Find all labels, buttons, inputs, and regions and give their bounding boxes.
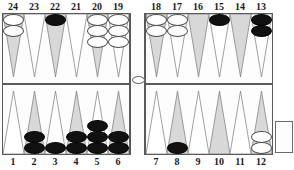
point-number-8: 8 <box>168 155 186 168</box>
point-number-20: 20 <box>88 0 106 13</box>
point-triangle-14 <box>230 14 251 77</box>
point-20[interactable] <box>87 14 108 77</box>
checker-white-point-18[interactable] <box>146 25 167 37</box>
point-number-21: 21 <box>67 0 85 13</box>
checker-black-point-2[interactable] <box>24 142 45 154</box>
point-number-6: 6 <box>109 155 127 168</box>
point-number-5: 5 <box>88 155 106 168</box>
checker-white-point-24[interactable] <box>3 25 24 37</box>
point-1[interactable] <box>3 91 24 154</box>
point-number-12: 12 <box>252 155 270 168</box>
point-6[interactable] <box>108 91 129 154</box>
checker-black-point-3[interactable] <box>45 142 66 154</box>
point-number-4: 4 <box>67 155 85 168</box>
checker-black-point-5[interactable] <box>87 142 108 154</box>
checker-black-point-5[interactable] <box>87 120 108 132</box>
point-3[interactable] <box>45 91 66 154</box>
point-9[interactable] <box>188 91 209 154</box>
checker-white-point-17[interactable] <box>167 25 188 37</box>
bar[interactable] <box>130 13 145 155</box>
point-number-24: 24 <box>4 0 22 13</box>
point-23[interactable] <box>24 14 45 77</box>
quadrant-bottom-right <box>145 84 273 155</box>
bear-off-tray-bottom[interactable] <box>275 121 293 153</box>
point-number-7: 7 <box>147 155 165 168</box>
point-number-22: 22 <box>46 0 64 13</box>
point-22[interactable] <box>45 14 66 77</box>
point-14[interactable] <box>230 14 251 77</box>
point-number-15: 15 <box>210 0 228 13</box>
checker-white-point-20[interactable] <box>87 36 108 48</box>
checker-black-point-5[interactable] <box>87 131 108 143</box>
point-15[interactable] <box>209 14 230 77</box>
point-10[interactable] <box>209 91 230 154</box>
point-2[interactable] <box>24 91 45 154</box>
point-13[interactable] <box>251 14 272 77</box>
checker-black-point-6[interactable] <box>108 142 129 154</box>
point-number-10: 10 <box>210 155 228 168</box>
point-number-19: 19 <box>109 0 127 13</box>
point-18[interactable] <box>146 14 167 77</box>
point-number-17: 17 <box>168 0 186 13</box>
point-17[interactable] <box>167 14 188 77</box>
point-triangle-23 <box>24 14 45 77</box>
point-number-2: 2 <box>25 155 43 168</box>
checker-black-point-6[interactable] <box>108 131 129 143</box>
point-number-3: 3 <box>46 155 64 168</box>
checker-black-point-22[interactable] <box>45 14 66 26</box>
point-number-13: 13 <box>252 0 270 13</box>
point-numbers-top: 242322212019181716151413 <box>0 0 294 13</box>
point-number-23: 23 <box>25 0 43 13</box>
point-number-9: 9 <box>189 155 207 168</box>
checker-black-point-2[interactable] <box>24 131 45 143</box>
point-triangle-7 <box>146 91 167 154</box>
checker-black-point-8[interactable] <box>167 142 188 154</box>
bar-checker-white[interactable] <box>132 76 145 84</box>
point-4[interactable] <box>66 91 87 154</box>
checker-black-point-15[interactable] <box>209 14 230 26</box>
point-5[interactable] <box>87 91 108 154</box>
point-triangle-9 <box>188 91 209 154</box>
checker-white-point-12[interactable] <box>251 142 272 154</box>
checker-black-point-4[interactable] <box>66 131 87 143</box>
point-12[interactable] <box>251 91 272 154</box>
quadrant-top-right <box>145 13 273 84</box>
point-triangle-11 <box>230 91 251 154</box>
point-triangle-1 <box>3 91 24 154</box>
point-16[interactable] <box>188 14 209 77</box>
point-number-14: 14 <box>231 0 249 13</box>
checker-black-point-4[interactable] <box>66 142 87 154</box>
checker-white-point-19[interactable] <box>108 36 129 48</box>
point-number-1: 1 <box>4 155 22 168</box>
backgammon-board: 242322212019181716151413 123456789101112 <box>0 0 294 170</box>
quadrant-bottom-left <box>2 84 130 155</box>
point-triangle-21 <box>66 14 87 77</box>
point-19[interactable] <box>108 14 129 77</box>
quadrant-top-left <box>2 13 130 84</box>
point-8[interactable] <box>167 91 188 154</box>
point-24[interactable] <box>3 14 24 77</box>
point-numbers-bottom: 123456789101112 <box>0 155 294 168</box>
point-number-18: 18 <box>147 0 165 13</box>
checker-white-point-12[interactable] <box>251 131 272 143</box>
point-7[interactable] <box>146 91 167 154</box>
point-triangle-16 <box>188 14 209 77</box>
point-number-16: 16 <box>189 0 207 13</box>
point-number-11: 11 <box>231 155 249 168</box>
point-21[interactable] <box>66 14 87 77</box>
point-11[interactable] <box>230 91 251 154</box>
point-triangle-10 <box>209 91 230 154</box>
checker-black-point-13[interactable] <box>251 25 272 37</box>
